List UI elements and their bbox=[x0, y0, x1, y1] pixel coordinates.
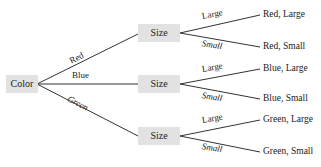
edge-green bbox=[37, 84, 138, 136]
edge-label-blue: Blue bbox=[72, 70, 89, 80]
edge-red-large bbox=[180, 15, 260, 33]
leaf-green-small: Green, Small bbox=[263, 146, 313, 156]
size-node-blue: Size bbox=[138, 75, 180, 93]
edge-green-large bbox=[180, 120, 260, 136]
leaf-green-large: Green, Large bbox=[263, 114, 313, 124]
root-node-color: Color bbox=[6, 75, 38, 93]
edge-blue-large bbox=[180, 69, 260, 84]
leaf-blue-small: Blue, Small bbox=[263, 93, 308, 103]
leaf-red-large: Red, Large bbox=[263, 9, 305, 19]
size-node-green: Size bbox=[138, 127, 180, 145]
size-node-red: Size bbox=[138, 24, 180, 42]
leaf-blue-large: Blue, Large bbox=[263, 63, 308, 73]
leaf-red-small: Red, Small bbox=[263, 41, 305, 51]
